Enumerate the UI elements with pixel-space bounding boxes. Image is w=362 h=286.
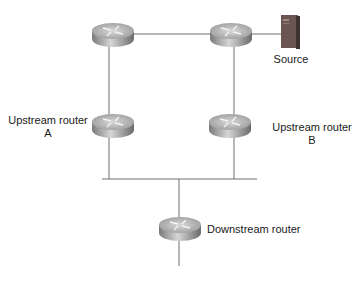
network-diagram: Source Upstream router A Upstream router… (0, 0, 362, 286)
router-top-right-icon (209, 22, 253, 48)
upstream-router-a-label: Upstream router A (4, 114, 92, 140)
router-top-left-icon (91, 22, 135, 48)
upstream-router-a-label-line1: Upstream router (4, 114, 92, 127)
upstream-router-a-label-line2: A (4, 127, 92, 140)
upstream-router-a-icon (91, 113, 135, 139)
source-server-icon (281, 15, 301, 49)
source-label: Source (270, 53, 312, 66)
upstream-router-b-label: Upstream router B (266, 121, 358, 147)
upstream-router-b-icon (208, 113, 252, 139)
downstream-router-label: Downstream router (207, 223, 301, 236)
downstream-router-icon (158, 216, 202, 242)
upstream-router-b-label-line2: B (266, 134, 358, 147)
upstream-router-b-label-line1: Upstream router (266, 121, 358, 134)
